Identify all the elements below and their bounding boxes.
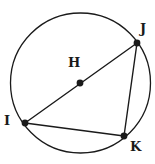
point-J-dot [134,40,141,47]
point-I-dot [22,120,29,127]
point-label-J: J [140,22,146,35]
point-label-I: I [4,114,10,127]
segment-JK [124,43,137,136]
geometry-figure: H J I K [0,0,155,164]
segment-IK [25,123,124,136]
point-K-dot [121,133,128,140]
point-label-K: K [130,140,141,153]
point-label-H: H [68,56,80,69]
point-H-dot [77,80,84,87]
